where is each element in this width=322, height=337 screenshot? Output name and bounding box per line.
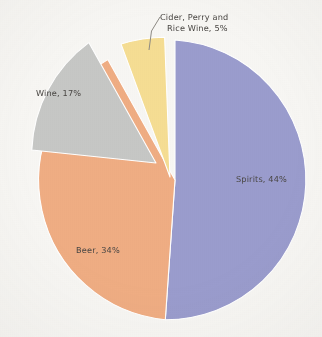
pie-label-spirits: Spirits, 44% xyxy=(236,174,287,185)
pie-label-cider-perry-rice-wine: Cider, Perry and Rice Wine, 5% xyxy=(160,12,260,34)
pie-label-cider-line-2: Rice Wine, 5% xyxy=(160,23,260,34)
pie-chart-figure: Spirits, 44% Beer, 34% Wine, 17% Cider, … xyxy=(0,0,322,337)
pie-label-wine: Wine, 17% xyxy=(36,88,81,99)
pie-label-beer: Beer, 34% xyxy=(76,245,120,256)
pie-chart-canvas xyxy=(0,0,322,337)
pie-label-cider-line-1: Cider, Perry and xyxy=(160,12,260,23)
